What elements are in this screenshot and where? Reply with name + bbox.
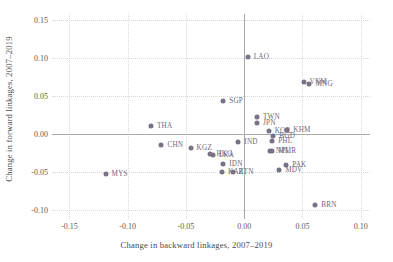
data-point — [255, 120, 260, 125]
data-point-label: BRN — [321, 202, 336, 209]
y-tick-label: -0.10 — [14, 205, 48, 214]
data-point — [236, 139, 241, 144]
data-point — [220, 169, 225, 174]
x-tick-label: 0.05 — [295, 222, 309, 231]
y-axis-ticks: -0.10-0.050.000.050.100.15 — [14, 0, 48, 262]
data-point — [307, 81, 312, 86]
y-tick-label: 0.15 — [14, 16, 48, 25]
data-point-label: LAO — [254, 54, 269, 61]
data-point — [188, 146, 193, 151]
data-point — [159, 142, 164, 147]
data-point — [149, 123, 154, 128]
data-point — [313, 202, 318, 207]
data-point — [210, 153, 215, 158]
data-point-label: MYS — [112, 171, 128, 178]
data-point — [221, 98, 226, 103]
x-axis-title: Change in backward linkages, 2007–2019 — [0, 240, 393, 250]
zero-line-horizontal — [52, 134, 370, 135]
gridline-vertical — [361, 14, 362, 219]
y-tick-label: -0.05 — [14, 167, 48, 176]
data-point-label: SGP — [229, 98, 243, 105]
data-point — [230, 169, 235, 174]
data-point — [301, 79, 306, 84]
scatter-chart: LAOVNMMNGSGPTWNJPNKORKHMTHABGDPHLINDCHNK… — [0, 0, 393, 262]
gridline-vertical — [128, 14, 129, 219]
data-point — [270, 138, 275, 143]
data-point-label: CHN — [167, 142, 183, 149]
gridline-vertical — [69, 14, 70, 219]
y-tick-label: 0.05 — [14, 92, 48, 101]
x-tick-label: 0.00 — [237, 222, 251, 231]
zero-line-vertical — [244, 14, 245, 219]
x-tick-label: 0.10 — [354, 222, 368, 231]
data-point-label: PHL — [278, 138, 292, 145]
x-tick-label: -0.15 — [61, 222, 78, 231]
data-point-label: BTN — [239, 169, 254, 176]
data-point-label: KHM — [293, 127, 310, 134]
data-point — [255, 114, 260, 119]
gridline-horizontal — [52, 58, 370, 59]
x-tick-label: -0.05 — [178, 222, 195, 231]
gridline-horizontal — [52, 20, 370, 21]
data-point-label: MMR — [278, 148, 296, 155]
y-tick-label: 0.00 — [14, 129, 48, 138]
data-point-label: THA — [157, 123, 172, 130]
data-point-label: MNG — [315, 81, 332, 88]
data-point-label: LKA — [219, 152, 234, 159]
y-tick-label: 0.10 — [14, 54, 48, 63]
data-point — [277, 167, 282, 172]
data-point — [270, 149, 275, 154]
gridline-horizontal — [52, 172, 370, 173]
gridline-vertical — [302, 14, 303, 219]
gridline-horizontal — [52, 210, 370, 211]
data-point-label: JPN — [263, 120, 276, 127]
gridline-horizontal — [52, 96, 370, 97]
data-point — [103, 172, 108, 177]
plot-area: LAOVNMMNGSGPTWNJPNKORKHMTHABGDPHLINDCHNK… — [52, 14, 370, 219]
gridline-vertical — [186, 14, 187, 219]
x-tick-label: -0.10 — [119, 222, 136, 231]
y-axis-title: Change in forward linkages, 2007–2019 — [4, 9, 14, 209]
data-point — [245, 55, 250, 60]
data-point — [266, 128, 271, 133]
data-point-label: MDV — [285, 167, 302, 174]
data-point — [221, 162, 226, 167]
data-point-label: IND — [244, 139, 257, 146]
